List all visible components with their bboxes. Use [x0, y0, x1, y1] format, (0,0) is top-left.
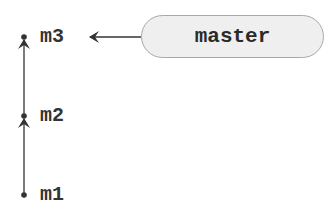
commit-dot-m2 — [21, 113, 27, 119]
branch-master: master — [141, 15, 324, 58]
commit-dot-m3 — [21, 34, 27, 40]
branch-label: master — [195, 25, 271, 48]
commit-label-m1: m1 — [40, 185, 64, 205]
commit-label-m3: m3 — [40, 27, 64, 47]
commit-dot-m1 — [21, 192, 27, 198]
commit-label-m2: m2 — [40, 106, 64, 126]
